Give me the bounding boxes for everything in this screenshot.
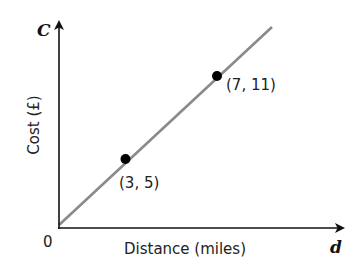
- data-point-7-11: [212, 71, 222, 81]
- x-axis-variable: d: [330, 237, 342, 257]
- origin-label: 0: [43, 233, 53, 251]
- point-label-7-11: (7, 11): [226, 76, 276, 94]
- y-axis-title: Cost (£): [25, 95, 43, 154]
- x-axis-title: Distance (miles): [124, 240, 246, 258]
- data-point-3-5: [121, 154, 131, 164]
- y-axis-variable: C: [37, 20, 51, 40]
- point-label-3-5: (3, 5): [119, 174, 159, 192]
- cost-distance-chart: (3, 5) (7, 11) C d 0 Distance (miles) Co…: [0, 0, 350, 262]
- cost-line: [59, 27, 272, 225]
